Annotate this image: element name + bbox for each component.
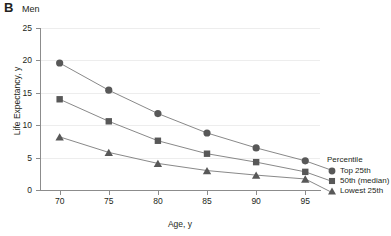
square-marker-icon xyxy=(327,176,337,186)
data-point xyxy=(155,138,161,144)
data-point xyxy=(253,144,260,151)
circle-marker-icon xyxy=(327,166,337,176)
data-point xyxy=(55,133,63,140)
series-circle xyxy=(56,59,331,170)
legend-item[interactable]: Lowest 25th xyxy=(327,186,389,196)
legend: Percentile Top 25th50th (median)Lowest 2… xyxy=(327,155,389,196)
legend-item-label: 50th (median) xyxy=(340,176,389,186)
legend-item-label: Top 25th xyxy=(340,166,371,176)
legend-title: Percentile xyxy=(327,155,389,165)
data-point xyxy=(253,159,259,165)
data-point xyxy=(105,149,113,156)
data-point xyxy=(106,118,112,124)
data-point xyxy=(302,157,309,164)
series-triangle xyxy=(55,133,331,192)
data-point xyxy=(154,110,161,117)
data-point xyxy=(56,96,62,102)
data-point xyxy=(204,151,210,157)
data-point xyxy=(203,129,210,136)
series-line xyxy=(60,137,306,179)
legend-items: Top 25th50th (median)Lowest 25th xyxy=(327,166,389,196)
legend-item[interactable]: Top 25th xyxy=(327,166,389,176)
figure-panel-b: B Men Life Expectancy, y Age, y 05101520… xyxy=(0,0,391,236)
series-line xyxy=(60,63,306,161)
data-point xyxy=(302,169,308,175)
data-point xyxy=(105,87,112,94)
legend-item[interactable]: 50th (median) xyxy=(327,176,389,186)
data-point xyxy=(56,59,63,66)
legend-item-label: Lowest 25th xyxy=(340,186,383,196)
series-line xyxy=(60,99,306,172)
triangle-marker-icon xyxy=(327,186,337,196)
data-series-layer xyxy=(0,0,391,236)
